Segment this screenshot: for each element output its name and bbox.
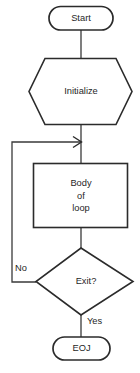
node-initialize-label: Initialize [64,86,98,96]
node-body-label-line2: of [77,191,85,201]
flowchart-svg: Start Initialize Body of loop Exit? No Y… [0,0,140,373]
node-start-label: Start [71,13,91,23]
edge-label-no: No [15,263,27,273]
node-body-label-line3: loop [72,203,90,213]
node-eoj-label: EOJ [72,343,90,353]
node-body-label-line1: Body [70,178,92,188]
edge-label-yes: Yes [87,316,103,326]
flowchart-canvas: Start Initialize Body of loop Exit? No Y… [0,0,140,373]
node-exit-label: Exit? [76,276,97,286]
